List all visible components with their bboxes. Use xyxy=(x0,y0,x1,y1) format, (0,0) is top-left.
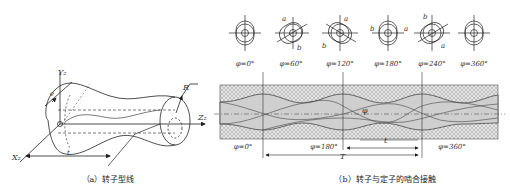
label-180: φ=180° xyxy=(374,60,402,68)
figure-canvas: Y₂ X₂ Z₂ e R t （a）转子型线 xyxy=(0,0,510,196)
caption-a: （a）转子型线 xyxy=(82,174,135,184)
svg-text:a: a xyxy=(404,25,408,33)
radius-label: R xyxy=(182,83,189,92)
pitch-label: t xyxy=(67,149,70,157)
stator-pitch-label: T xyxy=(340,152,346,161)
position-180-label: φ=180° xyxy=(310,143,338,151)
label-240: φ=240° xyxy=(418,60,446,68)
section-60 xyxy=(275,17,309,49)
svg-text:b: b xyxy=(297,44,302,52)
label-120: φ=120° xyxy=(326,60,354,68)
angle-label: φ xyxy=(362,106,368,115)
svg-text:b: b xyxy=(322,42,327,50)
rotor-diagram xyxy=(20,72,205,166)
cross-sections xyxy=(229,15,490,51)
y-axis-label: Y₂ xyxy=(58,68,67,77)
x-axis-label: X₂ xyxy=(11,153,21,162)
section-0 xyxy=(229,15,261,51)
svg-text:a: a xyxy=(282,15,286,23)
section-180 xyxy=(372,15,404,51)
label-360: φ=360° xyxy=(460,60,488,68)
svg-text:a: a xyxy=(441,42,445,50)
section-120 xyxy=(322,15,358,51)
svg-text:b: b xyxy=(370,25,375,33)
svg-text:a: a xyxy=(344,15,348,23)
label-0: φ=0° xyxy=(236,60,255,68)
section-360 xyxy=(458,15,490,51)
position-360-label: φ=360° xyxy=(438,143,466,151)
svg-text:b: b xyxy=(423,13,428,21)
label-60: φ=60° xyxy=(279,60,302,68)
section-labels: φ=0° φ=60° φ=120° φ=180° φ=240° φ=360° xyxy=(236,60,488,68)
position-0-label: φ=0° xyxy=(234,143,253,151)
z-axis-label: Z₂ xyxy=(197,113,207,122)
caption-b: （b）转子与定子的啮合接触 xyxy=(334,174,435,184)
eccentricity-label: e xyxy=(50,90,54,98)
rotor-top-edge xyxy=(55,83,175,99)
